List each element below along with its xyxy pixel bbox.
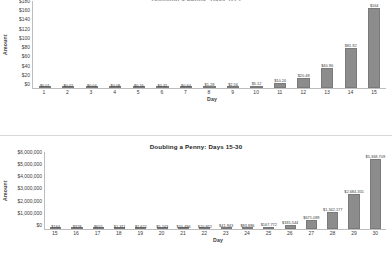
bar[interactable] — [306, 220, 317, 229]
x-tick-label: 4 — [103, 89, 127, 96]
bar[interactable] — [345, 48, 357, 88]
bar-value-label: $5,368,709 — [366, 155, 385, 159]
bar-value-label: $2,684,355 — [344, 190, 363, 194]
bar-value-label: $335,544 — [282, 220, 298, 224]
y-tick-label: $180 — [19, 0, 30, 4]
y-tick-label: $100 — [19, 36, 30, 41]
bar-slot[interactable]: $164 — [362, 1, 386, 88]
chart-panel-days-15-30: Doubling a Penny: Days 15-30 Amount $6,0… — [0, 135, 392, 269]
bar[interactable] — [274, 83, 286, 88]
bar-slot[interactable]: $5,368,709 — [365, 152, 386, 229]
x-tick-label: 12 — [292, 89, 316, 96]
x-tick-label: 10 — [244, 89, 268, 96]
bar-slot[interactable]: $1,342,177 — [322, 152, 343, 229]
bar-slot[interactable]: $5,243 — [152, 152, 173, 229]
bar-value-label: $20,972 — [198, 224, 212, 228]
x-tick-label: 17 — [87, 230, 108, 237]
x-tick-label: 25 — [258, 230, 279, 237]
x-tick-label: 18 — [108, 230, 129, 237]
x-tick-label: 28 — [322, 230, 343, 237]
bar-slot[interactable]: $167,772 — [258, 152, 279, 229]
x-tick-label: 14 — [339, 89, 363, 96]
bar-slot[interactable]: $41,943 — [216, 152, 237, 229]
x-tick-label: 5 — [126, 89, 150, 96]
bar-slot[interactable]: $164 — [45, 152, 66, 229]
x-tick-label: 15 — [44, 230, 65, 237]
bar-slot[interactable]: $0.08 — [104, 1, 128, 88]
bar-slot[interactable]: $2,684,355 — [343, 152, 364, 229]
bar-slot[interactable]: $335,544 — [279, 152, 300, 229]
x-tick-label: 26 — [279, 230, 300, 237]
bar-series-top: $0.01$0.02$0.04$0.08$0.16$0.32$0.64$1.28… — [33, 1, 386, 88]
x-axis-label-wrap-top: Day — [0, 96, 392, 103]
bar-slot[interactable]: $2.56 — [221, 1, 245, 88]
bar-slot[interactable]: $1.28 — [198, 1, 222, 88]
bar[interactable] — [297, 78, 309, 88]
x-tick-label: 1 — [32, 89, 56, 96]
x-tick-label: 3 — [79, 89, 103, 96]
y-tick-label: $80 — [22, 45, 30, 50]
bar-slot[interactable]: $1,311 — [109, 152, 130, 229]
bar-value-label: $0.04 — [87, 83, 97, 87]
bar[interactable] — [250, 86, 262, 89]
bar-value-label: $1.28 — [205, 83, 215, 87]
y-tick-label: $4,000,000 — [18, 174, 42, 179]
x-tick-label: 21 — [172, 230, 193, 237]
y-tick-label: $6,000,000 — [18, 150, 42, 155]
bar-value-label: $5,243 — [156, 224, 168, 228]
bar-slot[interactable]: $671,089 — [301, 152, 322, 229]
x-axis-label-bottom: Day — [44, 237, 392, 244]
bar[interactable] — [321, 68, 333, 88]
bar-slot[interactable]: $20,972 — [194, 152, 215, 229]
bar-value-label: $0.64 — [181, 83, 191, 87]
bar[interactable] — [227, 86, 239, 88]
bar[interactable] — [368, 8, 380, 88]
bar-slot[interactable]: $10,486 — [173, 152, 194, 229]
bar-slot[interactable]: $83,886 — [237, 152, 258, 229]
bar-slot[interactable]: $10.24 — [268, 1, 292, 88]
bar-slot[interactable]: $0.64 — [174, 1, 198, 88]
bar-slot[interactable]: $5.12 — [245, 1, 269, 88]
bar-slot[interactable]: $40.96 — [315, 1, 339, 88]
doubling-penny-charts-page: Doubling a Penny: Days 1-15 Amount $180$… — [0, 0, 392, 269]
bar-value-label: $10,486 — [176, 224, 190, 228]
y-axis-label-top: Amount — [0, 1, 10, 89]
plot-wrap-bottom: Amount $6,000,000$5,000,000$4,000,000$3,… — [0, 152, 392, 230]
x-tick-label: 11 — [268, 89, 292, 96]
y-tick-label: $0 — [25, 82, 30, 87]
y-tick-label: $2,000,000 — [18, 199, 42, 204]
x-tick-label: 27 — [301, 230, 322, 237]
x-axis-top: 123456789101112131415 — [0, 89, 392, 96]
bar-slot[interactable]: $81.92 — [339, 1, 363, 88]
bar-value-label: $2,621 — [135, 224, 147, 228]
x-tick-label: 15 — [362, 89, 386, 96]
y-tick-label: $3,000,000 — [18, 186, 42, 191]
bar-slot[interactable]: $20.48 — [292, 1, 316, 88]
bar[interactable] — [348, 194, 359, 229]
x-tick-label: 9 — [221, 89, 245, 96]
bar-slot[interactable]: $0.16 — [127, 1, 151, 88]
bar-value-label: $20.48 — [298, 74, 310, 78]
y-axis-ticks-bottom: $6,000,000$5,000,000$4,000,000$3,000,000… — [10, 152, 44, 230]
bar-slot[interactable]: $2,621 — [130, 152, 151, 229]
bar-value-label: $655 — [94, 224, 103, 228]
bar[interactable] — [370, 159, 381, 229]
bar[interactable] — [285, 225, 296, 229]
bar-slot[interactable]: $0.04 — [80, 1, 104, 88]
bar-slot[interactable]: $328 — [66, 152, 87, 229]
bar[interactable] — [263, 227, 274, 229]
x-tick-label: 6 — [150, 89, 174, 96]
bar-value-label: $41,943 — [219, 224, 233, 228]
bar-value-label: $10.24 — [274, 79, 286, 83]
bar-value-label: $328 — [73, 224, 82, 228]
bar[interactable] — [327, 212, 338, 229]
bar-slot[interactable]: $0.02 — [57, 1, 81, 88]
x-axis-bottom: 15161718192021222324252627282930 — [0, 230, 392, 237]
plot-wrap-top: Amount $180$160$140$120$100$80$60$40$20$… — [0, 1, 392, 89]
bar-slot[interactable]: $0.01 — [33, 1, 57, 88]
x-axis-ticks-top: 123456789101112131415 — [32, 89, 386, 96]
bar-value-label: $167,772 — [261, 222, 277, 226]
bar-slot[interactable]: $0.32 — [151, 1, 175, 88]
y-tick-label: $140 — [19, 17, 30, 22]
bar-slot[interactable]: $655 — [88, 152, 109, 229]
